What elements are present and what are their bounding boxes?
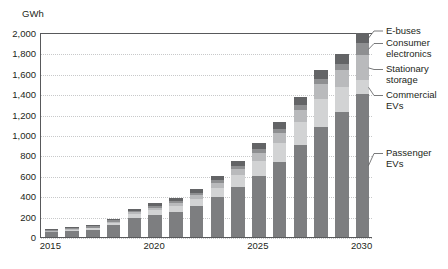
bar-2029 bbox=[335, 54, 349, 237]
bar-segment-passenger-evs bbox=[190, 206, 204, 237]
bar-segment-commercial-evs bbox=[294, 122, 308, 145]
y-tick-label: 1,000 bbox=[0, 130, 36, 141]
y-tick-label: 1,400 bbox=[0, 89, 36, 100]
bar-segment-commercial-evs bbox=[231, 175, 245, 187]
y-tick-label: 200 bbox=[0, 211, 36, 222]
bar-segment-passenger-evs bbox=[169, 212, 183, 237]
gridline bbox=[41, 238, 372, 239]
bar-2025 bbox=[252, 143, 266, 237]
x-tick-label: 2025 bbox=[247, 240, 268, 251]
bar-segment-passenger-evs bbox=[252, 176, 266, 237]
callout-label-passenger-evs: Passenger EVs bbox=[386, 148, 431, 169]
bar-segment-passenger-evs bbox=[294, 145, 308, 237]
bar-segment-commercial-evs bbox=[190, 199, 204, 207]
bar-2017 bbox=[86, 225, 100, 237]
bar-segment-stationary-storage bbox=[356, 55, 370, 80]
bar-segment-commercial-evs bbox=[356, 80, 370, 94]
bar-segment-stationary-storage bbox=[314, 84, 328, 99]
bar-2021 bbox=[169, 198, 183, 237]
bar-2030 bbox=[356, 33, 370, 237]
bar-segment-commercial-evs bbox=[273, 143, 287, 162]
bar-segment-passenger-evs bbox=[231, 187, 245, 237]
bar-series-group bbox=[41, 34, 372, 237]
x-axis-baseline bbox=[40, 237, 372, 238]
bar-2018 bbox=[107, 219, 121, 237]
y-axis-tick-labels: 02004006008001,0001,2001,4001,6001,8002,… bbox=[0, 0, 36, 269]
bar-segment-e-buses bbox=[273, 122, 287, 129]
bar-2026 bbox=[273, 122, 287, 237]
stacked-bar-chart: GWh 02004006008001,0001,2001,4001,6001,8… bbox=[0, 0, 448, 269]
bar-segment-e-buses bbox=[356, 33, 370, 43]
bar-segment-commercial-evs bbox=[335, 87, 349, 111]
x-axis-tick-labels: 2015202020252030 bbox=[0, 240, 448, 260]
bar-segment-stationary-storage bbox=[294, 110, 308, 122]
bar-segment-commercial-evs bbox=[314, 99, 328, 127]
bar-2023 bbox=[211, 176, 225, 237]
bar-segment-passenger-evs bbox=[211, 197, 225, 237]
callout-label-stationary-storage: Stationary storage bbox=[386, 64, 429, 85]
plot-area bbox=[40, 33, 372, 237]
bar-segment-passenger-evs bbox=[356, 94, 370, 237]
bar-segment-stationary-storage bbox=[252, 153, 266, 161]
bar-segment-passenger-evs bbox=[335, 112, 349, 237]
y-tick-label: 400 bbox=[0, 191, 36, 202]
x-tick-label: 2030 bbox=[351, 240, 372, 251]
bar-segment-e-buses bbox=[335, 54, 349, 64]
x-tick-label: 2020 bbox=[144, 240, 165, 251]
bar-segment-e-buses bbox=[294, 97, 308, 105]
bar-2019 bbox=[128, 209, 142, 237]
bar-segment-passenger-evs bbox=[107, 225, 121, 237]
y-tick-label: 2,000 bbox=[0, 28, 36, 39]
y-tick-label: 800 bbox=[0, 150, 36, 161]
bar-segment-stationary-storage bbox=[335, 70, 349, 87]
x-tick-label: 2015 bbox=[40, 240, 61, 251]
bar-segment-commercial-evs bbox=[252, 161, 266, 176]
bar-2022 bbox=[190, 189, 204, 237]
bar-2020 bbox=[148, 203, 162, 237]
y-tick-label: 1,600 bbox=[0, 68, 36, 79]
bar-segment-passenger-evs bbox=[273, 162, 287, 237]
bar-2024 bbox=[231, 161, 245, 238]
bar-segment-e-buses bbox=[314, 70, 328, 79]
y-tick-label: 1,800 bbox=[0, 48, 36, 59]
bar-2016 bbox=[65, 227, 79, 237]
callout-label-consumer-electronics: Consumer electronics bbox=[386, 38, 431, 59]
bar-segment-commercial-evs bbox=[211, 188, 225, 198]
bar-segment-stationary-storage bbox=[273, 133, 287, 143]
bar-segment-passenger-evs bbox=[128, 218, 142, 237]
bar-segment-passenger-evs bbox=[148, 215, 162, 237]
bar-2027 bbox=[294, 97, 308, 237]
callout-label-e-buses: E-buses bbox=[386, 26, 421, 37]
y-tick-label: 600 bbox=[0, 170, 36, 181]
bar-segment-passenger-evs bbox=[314, 127, 328, 237]
callout-label-commercial-evs: Commercial EVs bbox=[386, 90, 437, 111]
bar-segment-consumer-electronics bbox=[356, 43, 370, 55]
bar-2028 bbox=[314, 70, 328, 237]
y-tick-label: 1,200 bbox=[0, 109, 36, 120]
